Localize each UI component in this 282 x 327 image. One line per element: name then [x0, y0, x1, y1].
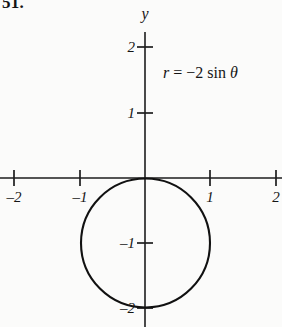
y-axis-label: y	[141, 6, 148, 22]
x-tick-label-neg1: –1	[73, 190, 88, 205]
equation-equals: =	[173, 64, 182, 81]
equation-annotation: r = −2 sin θ	[163, 63, 238, 82]
x-tick-label-pos2: 2	[272, 190, 280, 205]
y-tick-label-pos1: 1	[119, 106, 135, 121]
x-tick-label-neg2: –2	[7, 190, 22, 205]
y-tick-label-neg2: –2	[111, 301, 135, 316]
polar-plot-graphic	[0, 0, 282, 327]
x-tick-label-pos1: 1	[206, 190, 214, 205]
figure-container: 51. y r = −2 sin θ –2 –1 1 2 2 1 –1 –2	[0, 0, 282, 327]
equation-function: sin	[207, 64, 226, 81]
equation-angle: θ	[230, 64, 238, 81]
y-tick-label-pos2: 2	[119, 40, 135, 55]
y-tick-label-neg1: –1	[111, 236, 135, 251]
equation-coefficient: −2	[186, 64, 203, 81]
